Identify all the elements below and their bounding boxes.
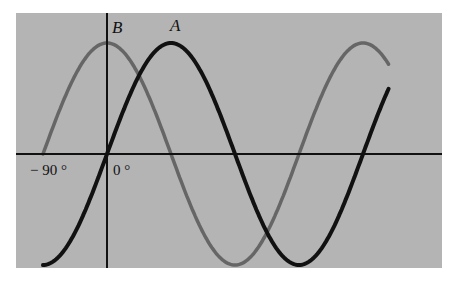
sine-cosine-figure: B A − 90 ° 0 ° — [0, 0, 449, 282]
tick-label-0: 0 ° — [113, 162, 130, 178]
tick-label-neg90: − 90 ° — [30, 162, 67, 178]
curve-b-label: B — [112, 18, 123, 37]
curve-a-label: A — [169, 16, 181, 35]
